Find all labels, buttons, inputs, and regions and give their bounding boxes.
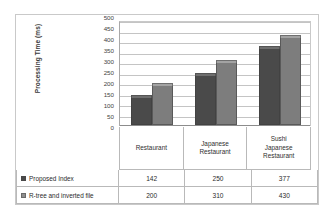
category-label-line: Restaurant xyxy=(199,148,230,157)
square-swatch-icon xyxy=(21,176,26,181)
bar[interactable] xyxy=(152,83,173,125)
category-label: Restaurant xyxy=(119,127,183,170)
category-label-line: Japanese xyxy=(199,140,230,149)
table-cell-value: 250 xyxy=(185,170,251,187)
y-tick-label: 300 xyxy=(88,59,114,65)
y-axis-tick-labels: 500450400350300250200150100500 xyxy=(88,18,114,128)
y-tick-label: 150 xyxy=(88,92,114,98)
y-tick-label: 350 xyxy=(88,48,114,54)
x-axis-baseline xyxy=(120,125,310,126)
bar-body xyxy=(280,38,301,125)
bar[interactable] xyxy=(259,46,280,125)
bar-body xyxy=(152,86,173,125)
bar-group xyxy=(120,22,184,125)
bar-body xyxy=(131,98,152,125)
category-label-line: Sushi xyxy=(263,135,294,144)
legend-label: Proposed Index xyxy=(29,175,74,182)
square-swatch-icon xyxy=(21,193,26,198)
category-label-line: Restaurant xyxy=(263,152,294,161)
chart-data-table: Proposed Index142250377R-tree and invert… xyxy=(16,170,318,204)
bar-body xyxy=(195,76,216,126)
table-cell-value: 200 xyxy=(119,187,185,204)
table-cell-value: 377 xyxy=(252,170,318,187)
y-tick-label: 200 xyxy=(88,81,114,87)
table-cell-value: 142 xyxy=(119,170,185,187)
y-tick-label: 0 xyxy=(88,125,114,131)
y-tick-label: 450 xyxy=(88,26,114,32)
y-tick-label: 50 xyxy=(88,114,114,120)
category-label-line: Restaurant xyxy=(136,144,167,153)
bar-body xyxy=(259,49,280,125)
plot-area xyxy=(119,21,311,126)
bar[interactable] xyxy=(216,60,237,125)
category-label: SushiJapaneseRestaurant xyxy=(246,127,311,170)
category-label-line: Japanese xyxy=(263,144,294,153)
y-tick-label: 250 xyxy=(88,70,114,76)
bar[interactable] xyxy=(131,95,152,125)
bar[interactable] xyxy=(280,35,301,125)
bar-group xyxy=(248,22,312,125)
bar[interactable] xyxy=(195,73,216,126)
y-tick-label: 400 xyxy=(88,37,114,43)
bar-body xyxy=(216,63,237,125)
y-tick-label: 500 xyxy=(88,15,114,21)
bar-group xyxy=(184,22,248,125)
y-axis-title: Processing Time (ms) xyxy=(34,11,41,107)
legend-entry[interactable]: R-tree and inverted file xyxy=(16,187,119,204)
chart-frame: Processing Time (ms) 5004504003503002502… xyxy=(15,14,319,205)
table-cell-value: 430 xyxy=(252,187,318,204)
legend-entry[interactable]: Proposed Index xyxy=(16,170,119,187)
table-cell-value: 310 xyxy=(185,187,251,204)
category-label: JapaneseRestaurant xyxy=(183,127,247,170)
table-row: Proposed Index142250377 xyxy=(16,170,318,187)
y-tick-label: 100 xyxy=(88,103,114,109)
plot-region: Processing Time (ms) 5004504003503002502… xyxy=(16,15,318,139)
x-axis-category-row: RestaurantJapaneseRestaurantSushiJapanes… xyxy=(119,127,311,170)
table-row: R-tree and inverted file200310430 xyxy=(16,187,318,204)
legend-label: R-tree and inverted file xyxy=(29,192,94,199)
